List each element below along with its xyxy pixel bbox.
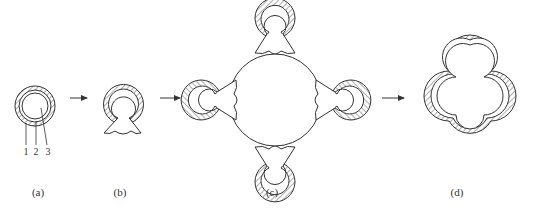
layer-label-2: 2 <box>34 146 39 157</box>
panel-label-d: (d) <box>451 186 464 198</box>
panel-b-ruptured-sphere <box>104 84 144 134</box>
layer-label-3: 3 <box>46 146 51 157</box>
panel-label-c: (c) <box>266 186 278 198</box>
panel-label-b: (b) <box>114 186 127 198</box>
process-diagram <box>0 0 544 208</box>
panel-a-sphere <box>15 86 55 145</box>
panel-label-a: (a) <box>32 186 44 198</box>
panel-d-fused-structure <box>424 35 516 133</box>
panel-c-assembly <box>181 0 371 202</box>
layer-label-1: 1 <box>24 146 29 157</box>
